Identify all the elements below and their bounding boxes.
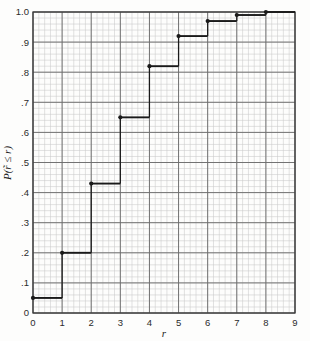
x-tick-label: 4 <box>147 317 152 328</box>
y-tick-label: .6 <box>21 127 29 138</box>
x-tick-label: 6 <box>205 317 210 328</box>
grid-major-lines <box>33 12 295 313</box>
step-point-marker <box>89 181 93 185</box>
y-tick-label: .9 <box>21 37 29 48</box>
step-point-marker <box>235 13 239 17</box>
step-point-marker <box>60 251 64 255</box>
y-tick-label: .7 <box>21 97 29 108</box>
x-tick-label: 8 <box>263 317 268 328</box>
x-axis-title: r <box>162 327 167 339</box>
x-tick-label: 7 <box>234 317 239 328</box>
x-tick-label: 0 <box>30 317 35 328</box>
x-tick-label: 2 <box>89 317 94 328</box>
cdf-plot-svg: 0.1.2.3.4.5.6.7.8.91.0 0123456789 r P(r̃… <box>0 0 310 341</box>
step-point-marker <box>264 10 268 14</box>
y-axis-tick-labels: 0.1.2.3.4.5.6.7.8.91.0 <box>16 6 29 318</box>
x-tick-label: 1 <box>59 317 64 328</box>
y-tick-label: .2 <box>21 247 29 258</box>
step-point-marker <box>206 19 210 23</box>
chart-figure: 0.1.2.3.4.5.6.7.8.91.0 0123456789 r P(r̃… <box>0 0 310 341</box>
step-point-marker <box>176 34 180 38</box>
y-tick-label: .3 <box>21 217 29 228</box>
step-point-marker <box>147 64 151 68</box>
y-tick-label: 1.0 <box>16 6 29 17</box>
y-axis-title: P(r̃ ≤ r) <box>1 146 14 181</box>
step-point-marker <box>31 296 35 300</box>
y-tick-label: 0 <box>24 307 29 318</box>
x-tick-label: 9 <box>292 317 297 328</box>
y-tick-label: .4 <box>21 187 29 198</box>
y-tick-label: .8 <box>21 67 29 78</box>
step-point-marker <box>118 115 122 119</box>
x-tick-label: 5 <box>176 317 181 328</box>
step-curve <box>33 12 295 298</box>
x-tick-label: 3 <box>118 317 123 328</box>
y-tick-label: .5 <box>21 157 29 168</box>
y-tick-label: .1 <box>21 277 29 288</box>
